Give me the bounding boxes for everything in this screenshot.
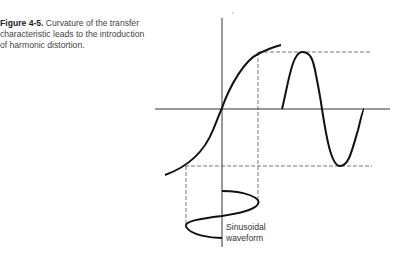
scan-speck — [232, 12, 233, 13]
transfer-characteristic-diagram — [0, 0, 411, 257]
projection-lines — [185, 52, 372, 226]
label-line-2: waveform — [226, 233, 266, 244]
label-line-1: Sinusoidal — [226, 222, 266, 233]
input-waveform-label: Sinusoidal waveform — [226, 222, 266, 244]
transfer-characteristic-curve — [165, 45, 281, 175]
